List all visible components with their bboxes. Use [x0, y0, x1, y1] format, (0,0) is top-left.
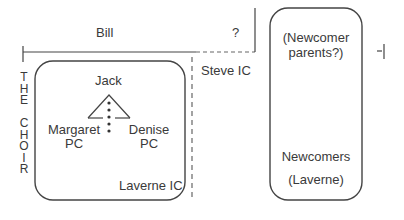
label-steve-ic: Steve IC — [201, 63, 251, 78]
label-margaret: Margaret PC — [46, 123, 102, 151]
label-denise: Denise PC — [126, 123, 172, 151]
label-jack: Jack — [95, 73, 122, 88]
label-newcomer-parents: (Newcomer parents?) — [270, 30, 362, 60]
label-bill: Bill — [96, 25, 113, 40]
dotted-line — [107, 101, 110, 132]
label-question: ? — [232, 25, 239, 40]
triangle — [88, 95, 130, 118]
label-laverne-ic: Laverne IC — [119, 178, 183, 193]
label-newcomers: Newcomers (Laverne) — [270, 145, 362, 191]
side-label-the-choir: T H E C H O I R — [18, 72, 30, 176]
